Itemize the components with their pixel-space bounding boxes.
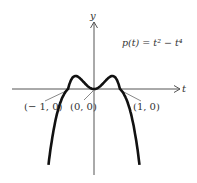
plot-area <box>0 0 197 183</box>
chart: y t p(t) = t² − t⁴ (− 1, 0) (0, 0) (1, 0… <box>0 0 197 183</box>
y-axis-label: y <box>90 10 96 21</box>
equation-label: p(t) = t² − t⁴ <box>122 37 183 48</box>
point-label-neg1: (− 1, 0) <box>24 101 62 112</box>
point-label-0: (0, 0) <box>70 101 97 112</box>
t-axis-label: t <box>182 83 186 94</box>
leader-0 <box>84 91 93 100</box>
point-label-1: (1, 0) <box>133 101 160 112</box>
